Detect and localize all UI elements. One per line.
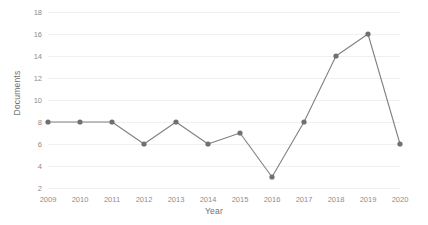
y-tick-label: 8 [38,118,42,127]
x-tick-label: 2010 [72,195,89,204]
series-documents: 2009: 82010: 82011: 82012: 62013: 82014:… [48,12,400,188]
y-tick-label: 12 [34,74,42,83]
line-chart: Documents 24681012141618 200920102011201… [0,0,428,225]
x-tick-label: 2009 [40,195,57,204]
y-axis-title: Documents [12,53,22,133]
x-axis-title: Year [0,206,428,216]
y-tick-label: 10 [34,96,42,105]
data-point: 2016: 3 [269,174,274,179]
y-tick-label: 4 [38,162,42,171]
data-point: 2010: 8 [77,119,82,124]
x-tick-label: 2014 [200,195,217,204]
x-tick-label: 2019 [360,195,377,204]
x-tick-label: 2020 [392,195,409,204]
x-tick-label: 2013 [168,195,185,204]
data-point: 2012: 6 [141,141,146,146]
y-tick-label: 2 [38,184,42,193]
plot-area: 24681012141618 2009201020112012201320142… [48,12,400,188]
data-point: 2014: 6 [205,141,210,146]
x-tick-label: 2011 [104,195,120,204]
data-point: 2011: 8 [109,119,114,124]
gridline [48,188,400,189]
data-point: 2015: 7 [237,130,242,135]
data-point: 2017: 8 [301,119,306,124]
x-tick-label: 2015 [232,195,249,204]
data-point: 2019: 16 [365,31,370,36]
x-tick-label: 2018 [328,195,345,204]
y-tick-label: 6 [38,140,42,149]
y-tick-label: 18 [34,8,42,17]
x-tick-label: 2016 [264,195,281,204]
data-point: 2009: 8 [45,119,50,124]
x-tick-label: 2012 [136,195,153,204]
data-point: 2020: 6 [397,141,402,146]
series-line [48,34,400,177]
data-point: 2018: 14 [333,53,338,58]
x-tick-label: 2017 [296,195,313,204]
y-tick-label: 14 [34,52,42,61]
data-point: 2013: 8 [173,119,178,124]
y-tick-label: 16 [34,30,42,39]
